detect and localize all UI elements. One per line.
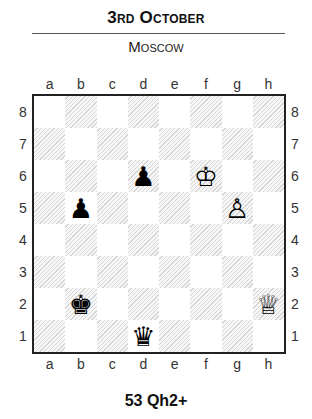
square-d5: [128, 192, 159, 224]
file-label: c: [97, 76, 128, 92]
square-b1: [65, 320, 96, 352]
black-king-icon: ♚: [69, 291, 93, 318]
square-a6: [34, 160, 65, 192]
file-label: f: [190, 356, 221, 372]
square-e4: [159, 224, 190, 256]
black-queen-icon: ♛: [131, 323, 155, 350]
white-queen-icon: ♕: [256, 291, 280, 318]
square-b4: [65, 224, 96, 256]
file-label: h: [253, 76, 284, 92]
square-h8: [253, 96, 284, 128]
file-labels-bottom: a b c d e f g h: [34, 356, 284, 372]
white-king-icon: ♔: [194, 163, 218, 190]
file-label: d: [128, 76, 159, 92]
square-a7: [34, 128, 65, 160]
square-d2: [128, 288, 159, 320]
diagram-title: 3rd October: [0, 8, 312, 28]
rank-label: 4: [16, 224, 30, 256]
square-e5: [159, 192, 190, 224]
square-a3: [34, 256, 65, 288]
square-d1: ♛: [128, 320, 159, 352]
square-f5: [190, 192, 221, 224]
square-b3: [65, 256, 96, 288]
square-a5: [34, 192, 65, 224]
rank-label: 2: [16, 288, 30, 320]
rank-label: 7: [288, 128, 302, 160]
rank-label: 1: [16, 320, 30, 352]
square-f4: [190, 224, 221, 256]
file-label: d: [128, 356, 159, 372]
square-h3: [253, 256, 284, 288]
file-label: e: [159, 76, 190, 92]
rank-label: 4: [288, 224, 302, 256]
square-c5: [97, 192, 128, 224]
black-pawn-icon: ♟: [131, 163, 155, 190]
file-label: f: [190, 76, 221, 92]
diagram-subtitle: Moscow: [0, 38, 312, 55]
square-b8: [65, 96, 96, 128]
square-e2: [159, 288, 190, 320]
square-a1: [34, 320, 65, 352]
chess-board: ♟♔♟♙♚♕♛: [32, 94, 286, 354]
file-label: g: [222, 356, 253, 372]
square-g4: [222, 224, 253, 256]
rank-label: 8: [288, 96, 302, 128]
square-e6: [159, 160, 190, 192]
square-h2: ♕: [253, 288, 284, 320]
move-caption: 53 Qh2+: [0, 392, 312, 410]
square-g1: [222, 320, 253, 352]
square-g5: ♙: [222, 192, 253, 224]
square-d6: ♟: [128, 160, 159, 192]
square-f8: [190, 96, 221, 128]
square-f2: [190, 288, 221, 320]
square-d3: [128, 256, 159, 288]
rank-label: 3: [16, 256, 30, 288]
square-b2: ♚: [65, 288, 96, 320]
square-c7: [97, 128, 128, 160]
square-h7: [253, 128, 284, 160]
rank-label: 5: [288, 192, 302, 224]
square-f3: [190, 256, 221, 288]
square-b6: [65, 160, 96, 192]
square-e1: [159, 320, 190, 352]
square-e8: [159, 96, 190, 128]
rank-label: 6: [288, 160, 302, 192]
square-c8: [97, 96, 128, 128]
square-b5: ♟: [65, 192, 96, 224]
square-g2: [222, 288, 253, 320]
title-divider: [32, 33, 285, 34]
file-label: b: [65, 76, 96, 92]
square-a2: [34, 288, 65, 320]
square-c6: [97, 160, 128, 192]
square-g7: [222, 128, 253, 160]
square-e3: [159, 256, 190, 288]
square-h5: [253, 192, 284, 224]
square-f7: [190, 128, 221, 160]
file-label: a: [34, 356, 65, 372]
rank-labels-left: 8 7 6 5 4 3 2 1: [16, 96, 30, 352]
square-a4: [34, 224, 65, 256]
file-label: a: [34, 76, 65, 92]
file-labels-top: a b c d e f g h: [34, 76, 284, 92]
square-c3: [97, 256, 128, 288]
rank-label: 7: [16, 128, 30, 160]
square-d7: [128, 128, 159, 160]
white-pawn-icon: ♙: [225, 195, 249, 222]
square-h1: [253, 320, 284, 352]
black-pawn-icon: ♟: [69, 195, 93, 222]
file-label: g: [222, 76, 253, 92]
square-g3: [222, 256, 253, 288]
rank-label: 1: [288, 320, 302, 352]
file-label: b: [65, 356, 96, 372]
file-label: c: [97, 356, 128, 372]
square-e7: [159, 128, 190, 160]
square-c2: [97, 288, 128, 320]
rank-label: 5: [16, 192, 30, 224]
square-f6: ♔: [190, 160, 221, 192]
square-a8: [34, 96, 65, 128]
square-g8: [222, 96, 253, 128]
square-b7: [65, 128, 96, 160]
rank-label: 8: [16, 96, 30, 128]
square-g6: [222, 160, 253, 192]
square-d4: [128, 224, 159, 256]
